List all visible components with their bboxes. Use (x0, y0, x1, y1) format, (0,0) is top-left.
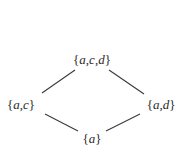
hasse-diagram: {a,c,d} {a,c} {a,d} {a} (0, 0, 185, 154)
close-brace: } (95, 131, 101, 146)
edge-ad-a (106, 114, 140, 131)
edge-acd-ac (42, 70, 75, 93)
close-brace: } (105, 52, 111, 67)
edge-acd-ad (109, 70, 144, 94)
node-set-acd: {a,c,d} (73, 53, 111, 66)
close-brace: } (29, 97, 35, 112)
node-set-ad: {a,d} (147, 98, 176, 111)
node-set-ac: {a,c} (7, 98, 35, 111)
node-set-a: {a} (83, 132, 102, 145)
edge-ac-a (45, 114, 78, 131)
close-brace: } (169, 97, 175, 112)
